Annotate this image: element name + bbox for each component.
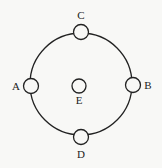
node-circle-c — [74, 25, 89, 40]
node-circle-b — [126, 78, 141, 93]
node-a: A — [12, 79, 38, 94]
node-group: CABDE — [12, 9, 152, 160]
node-d: D — [74, 130, 89, 161]
node-b: B — [126, 78, 152, 93]
node-label-d: D — [77, 148, 85, 160]
node-e: E — [72, 79, 86, 106]
circle-node-diagram: CABDE — [0, 0, 162, 168]
node-c: C — [74, 9, 89, 40]
node-label-e: E — [76, 94, 83, 106]
node-label-c: C — [77, 9, 84, 21]
node-label-b: B — [144, 79, 151, 91]
node-label-a: A — [12, 80, 20, 92]
node-circle-e — [72, 79, 86, 93]
node-circle-d — [74, 130, 89, 145]
node-circle-a — [24, 79, 39, 94]
